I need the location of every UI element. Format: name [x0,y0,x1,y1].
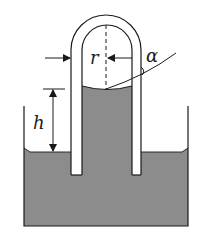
height-arrow [43,89,65,151]
height-label: h [33,112,45,133]
contact-angle-label: α [146,45,158,66]
tube-liquid-column [82,86,132,152]
capillary-diagram: r h α [0,0,200,242]
radius-label: r [90,47,100,68]
container-liquid [24,148,188,226]
